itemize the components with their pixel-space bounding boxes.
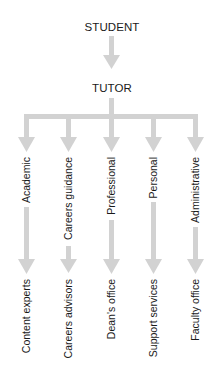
node-referral-careers-advisors: Careers advisors [63,279,74,358]
arrow-to-professional [103,114,120,152]
arrow-to-faculty-office [187,227,204,274]
tutor-referral-diagram: STUDENT TUTOR Academic Careers guidance … [0,0,215,366]
arrow-to-careers-guidance [60,114,77,152]
node-tutor: TUTOR [92,83,132,95]
arrow-to-administrative [187,114,204,152]
node-referral-support-services: Support services [148,279,159,357]
node-referral-faculty-office: Faculty office [190,279,201,341]
arrow-to-careers-advisors [60,246,77,273]
arrow-to-deans-office [103,220,120,274]
node-role-academic: Academic [21,157,32,203]
node-role-administrative: Administrative [190,157,201,223]
arrow-student-to-tutor [103,36,120,69]
node-role-professional: Professional [106,157,117,215]
node-student: STUDENT [84,22,139,34]
node-referral-deans-office: Dean's office [106,279,117,339]
node-role-personal: Personal [148,157,159,198]
arrow-to-support-services [145,202,162,274]
arrow-to-academic [18,114,35,152]
node-referral-content-experts: Content experts [21,279,32,353]
arrow-to-personal [145,114,162,152]
node-role-careers-guidance: Careers guidance [63,157,74,240]
arrow-to-content-experts [18,207,35,274]
